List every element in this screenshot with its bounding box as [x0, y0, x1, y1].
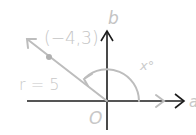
angle-label: x° [139, 58, 154, 73]
unit-circle-angle-diagram: (−4,3) b r = 5 x° O a [0, 0, 196, 135]
origin-label: O [89, 108, 102, 128]
point-label: (−4,3) [44, 28, 99, 48]
angle-arc [84, 69, 139, 101]
point-marker [46, 54, 52, 60]
vertical-axis [101, 31, 113, 130]
vertical-axis-label: b [108, 8, 119, 28]
radius-label: r = 5 [19, 75, 59, 94]
horizontal-axis-label: a [189, 93, 196, 111]
